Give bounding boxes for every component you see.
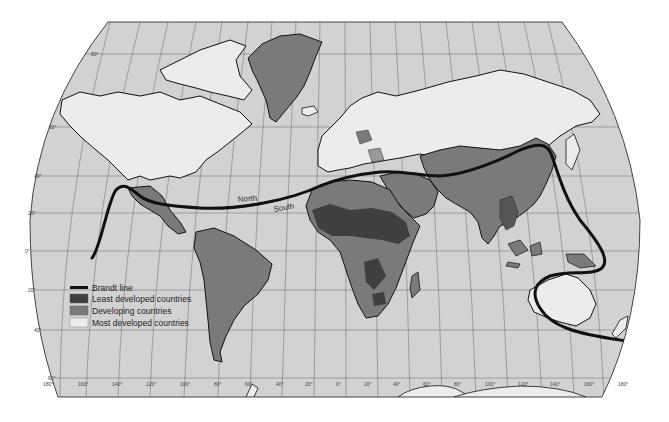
svg-text:60°: 60°	[423, 381, 431, 387]
svg-text:20°: 20°	[364, 381, 372, 387]
svg-text:40°: 40°	[34, 327, 42, 333]
svg-text:20°: 20°	[305, 381, 313, 387]
svg-text:180°: 180°	[43, 381, 53, 387]
north-label: North	[238, 194, 258, 204]
svg-text:0°: 0°	[25, 248, 30, 254]
svg-text:120°: 120°	[146, 381, 156, 387]
svg-text:80°: 80°	[454, 381, 462, 387]
most-developed-swatch	[70, 318, 88, 327]
brandt-line-swatch	[70, 286, 88, 289]
svg-text:180°: 180°	[618, 381, 628, 387]
legend-item-developing: Developing countries	[70, 306, 171, 316]
svg-text:Developing countries: Developing countries	[92, 306, 171, 316]
svg-text:40°: 40°	[393, 381, 401, 387]
svg-text:Least developed countries: Least developed countries	[92, 294, 191, 304]
legend-item-least-developed: Least developed countries	[70, 294, 191, 304]
svg-text:160°: 160°	[78, 381, 88, 387]
developing-swatch	[70, 306, 88, 315]
svg-text:20°: 20°	[28, 210, 36, 216]
svg-text:140°: 140°	[550, 381, 560, 387]
svg-text:140°: 140°	[112, 381, 122, 387]
world-map: North South 80° 60° 40° 20° 0° 20° 40° 6…	[0, 0, 669, 422]
svg-text:Most developed countries: Most developed countries	[92, 318, 189, 328]
legend-item-most-developed: Most developed countries	[70, 318, 189, 328]
svg-text:80°: 80°	[91, 51, 99, 57]
svg-text:100°: 100°	[180, 381, 190, 387]
svg-text:60°: 60°	[49, 124, 57, 130]
svg-text:0°: 0°	[336, 381, 341, 387]
svg-text:160°: 160°	[584, 381, 594, 387]
svg-text:100°: 100°	[485, 381, 495, 387]
svg-text:120°: 120°	[518, 381, 528, 387]
least-developed-swatch	[70, 294, 88, 303]
svg-text:40°: 40°	[34, 173, 42, 179]
svg-text:20°: 20°	[28, 287, 36, 293]
svg-text:60°: 60°	[245, 381, 253, 387]
svg-text:Brandt line: Brandt line	[92, 283, 133, 293]
svg-text:80°: 80°	[214, 381, 222, 387]
svg-text:40°: 40°	[276, 381, 284, 387]
